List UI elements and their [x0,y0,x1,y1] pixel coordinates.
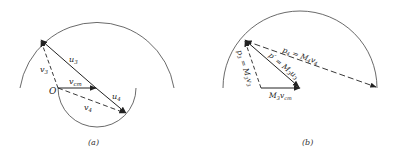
label-origin: O [49,86,57,96]
label-v3: v3 [40,65,49,75]
panel-a: u3 v3 vcm u4 v4 O (a) [20,22,174,147]
large-arc-a [20,22,174,88]
label-vcm: vcm [69,77,82,87]
small-arc-a [58,88,136,127]
label-p3: p3 = M3v3 [235,49,256,87]
caption-b: (b) [302,138,313,147]
collision-velocity-diagram: u3 v3 vcm u4 v4 O (a) p4 = M4v4 p [0,0,395,153]
label-v4: v4 [84,103,93,113]
label-m3vcm: M3vcm [268,91,292,101]
label-u3: u3 [69,55,78,65]
panel-b: p4 = M4v4 p′ = M3u3 p3 = M3v3 M3vcm (b) [223,11,377,147]
u4-vector [96,88,126,113]
label-u4: u4 [112,92,121,102]
caption-a: (a) [88,138,99,147]
